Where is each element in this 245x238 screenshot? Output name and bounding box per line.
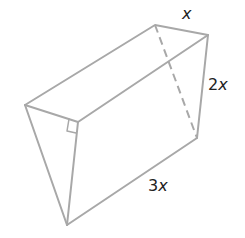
- label-top-x: x: [182, 6, 191, 22]
- hidden-edge: [155, 25, 197, 138]
- prism-diagram: x 2x 3x: [0, 0, 245, 238]
- left-slant-edge: [25, 105, 67, 225]
- left-top-edge: [25, 105, 78, 122]
- label-var: x: [158, 176, 167, 195]
- right-edge: [197, 35, 208, 138]
- label-right-2x: 2x: [208, 77, 228, 93]
- label-bottom-3x: 3x: [148, 178, 168, 194]
- front-vertical-edge: [67, 122, 78, 225]
- prism-drawing: [0, 0, 245, 238]
- top-front-edge: [78, 35, 208, 122]
- bottom-edge: [67, 138, 197, 225]
- label-coef: 3: [148, 176, 158, 195]
- label-var: x: [218, 75, 227, 94]
- label-var: x: [182, 4, 191, 23]
- label-coef: 2: [208, 75, 218, 94]
